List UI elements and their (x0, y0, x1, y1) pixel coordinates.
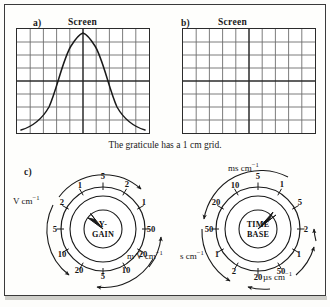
dial-y-gain-hub-line-2: GAIN (92, 230, 114, 239)
graticule-a-center-axes (17, 29, 149, 133)
figure-frame-shadow (5, 296, 327, 300)
panel-label-a: a) (33, 18, 41, 28)
label-milliseconds-per-cm-text: ms cm (228, 163, 252, 173)
dial-y-gain-number-8: 10 (58, 249, 67, 259)
dial-time-base-number-1: 1 (280, 179, 284, 189)
dial-y-gain-number-1: 2 (125, 179, 129, 189)
label-microseconds-per-cm-exponent: −1 (285, 270, 292, 277)
label-milliseconds-per-cm-exponent: −1 (252, 161, 259, 168)
dial-time-base-number-10: 20 (212, 197, 221, 207)
panel-label-b: b) (181, 18, 190, 28)
label-milliseconds-per-cm: ms cm−1 (228, 163, 259, 173)
dial-y-gain-number-5: 10 (122, 265, 131, 275)
figure-canvas: a) Screen (0, 0, 330, 307)
label-seconds-per-cm-exponent: −1 (197, 249, 204, 256)
dial-y-gain-number-0: 5 (101, 171, 105, 181)
label-seconds-per-cm-text: s cm (180, 251, 197, 261)
panel-label-c: c) (24, 167, 32, 177)
graticule-b-center-axes (183, 29, 315, 133)
dial-y-gain-number-2: 1 (142, 197, 146, 207)
label-seconds-per-cm: s cm−1 (180, 251, 204, 261)
label-microseconds-per-cm-text: µs cm (263, 272, 285, 282)
dial-y-gain-number-10: 2 (60, 197, 64, 207)
graticule-b (182, 28, 316, 134)
dial-time-base[interactable]: 5 1 5 2 1 50 20 2 1 50 20 10 TIME BASE (192, 163, 324, 295)
dial-y-gain-number-3: 50 (147, 224, 156, 234)
graticule-a (16, 28, 150, 134)
dial-time-base-hub-line-2: BASE (247, 230, 270, 239)
dial-time-base-number-2: 5 (298, 197, 302, 207)
screen-title-b: Screen (218, 17, 247, 27)
dial-time-base-number-11: 10 (231, 180, 240, 190)
label-volts-per-cm: V cm−1 (13, 196, 40, 206)
label-millivolts-per-cm: m V cm−1 (127, 251, 163, 261)
dial-time-base-hub-line-1: TIME (247, 220, 270, 229)
sweep-arc-bottom (248, 287, 270, 289)
dial-time-base-number-8: 1 (215, 249, 219, 259)
label-millivolts-per-cm-text: m V cm (127, 251, 156, 261)
dial-time-base-number-6: 20 (254, 272, 263, 282)
figure-caption: The graticule has a 1 cm grid. (0, 140, 330, 150)
dial-time-base-number-9: 50 (205, 224, 214, 234)
label-millivolts-per-cm-exponent: −1 (156, 249, 163, 256)
dial-y-gain-hub-line-1: Y- (99, 220, 107, 229)
graticule-a-svg (17, 29, 149, 133)
label-volts-per-cm-text: V cm (13, 196, 33, 206)
dial-y-gain-number-11: 1 (78, 180, 82, 190)
dial-y-gain-number-6: 5 (101, 271, 105, 281)
dial-y-gain-number-7: 20 (75, 265, 84, 275)
sweep-arc-right-upper (314, 229, 316, 241)
dial-time-base-number-3: 2 (304, 224, 308, 234)
label-microseconds-per-cm: µs cm−1 (263, 272, 292, 282)
dial-time-base-number-7: 2 (232, 266, 236, 276)
dial-y-gain-number-9: 5 (53, 224, 57, 234)
dial-y-gain-svg[interactable]: 5 2 1 50 20 10 5 20 10 5 2 1 Y- GAIN (37, 163, 169, 295)
dial-y-gain[interactable]: 5 2 1 50 20 10 5 20 10 5 2 1 Y- GAIN (37, 163, 169, 295)
screen-title-a: Screen (68, 17, 97, 27)
label-volts-per-cm-exponent: −1 (33, 194, 40, 201)
dial-time-base-number-4: 1 (297, 249, 301, 259)
graticule-b-svg (183, 29, 315, 133)
dial-time-base-svg[interactable]: 5 1 5 2 1 50 20 2 1 50 20 10 TIME BASE (192, 163, 324, 295)
